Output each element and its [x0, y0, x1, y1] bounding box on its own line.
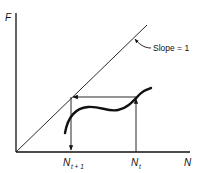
map-curve — [65, 88, 151, 133]
cobweb-diagram: F N Slope = 1 N t + 1 N t — [0, 0, 206, 173]
x-axis-label: N — [184, 157, 192, 168]
svg-text:t + 1: t + 1 — [71, 163, 84, 170]
label-n-t: N t — [131, 157, 142, 170]
svg-text:t: t — [139, 163, 142, 170]
label-n-t-plus-1: N t + 1 — [63, 157, 84, 170]
svg-text:N: N — [63, 157, 71, 168]
svg-text:N: N — [131, 157, 139, 168]
y-axis-label: F — [5, 12, 12, 23]
slope-label: Slope = 1 — [153, 43, 189, 53]
slope-one-line — [16, 25, 147, 152]
slope-label-leader — [135, 39, 151, 48]
